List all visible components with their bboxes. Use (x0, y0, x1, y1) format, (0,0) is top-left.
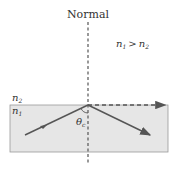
total-internal-reflection-diagram: Normal n1>n2 n2 n1 θc (0, 0, 172, 172)
medium-n1-region (10, 105, 168, 152)
condition-label: n1>n2 (116, 38, 149, 50)
normal-label: Normal (67, 8, 109, 21)
medium-n2-label: n2 (12, 92, 22, 104)
